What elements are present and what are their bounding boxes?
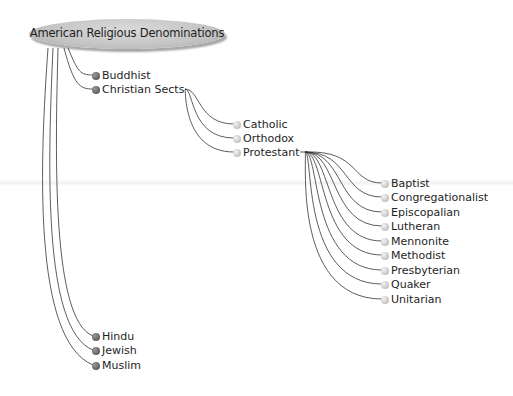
bullet-icon xyxy=(92,86,100,94)
bullet-icon xyxy=(381,209,389,217)
node-label: Catholic xyxy=(243,118,288,131)
node-presbyterian[interactable]: Presbyterian xyxy=(381,264,460,277)
node-label: Muslim xyxy=(102,359,141,372)
node-label: Episcopalian xyxy=(391,206,460,219)
node-catholic[interactable]: Catholic xyxy=(233,118,288,131)
bullet-icon xyxy=(381,296,389,304)
node-label: Baptist xyxy=(391,177,430,190)
node-hindu[interactable]: Hindu xyxy=(92,330,134,343)
node-quaker[interactable]: Quaker xyxy=(381,278,431,291)
bullet-icon xyxy=(233,135,241,143)
bullet-icon xyxy=(381,281,389,289)
bullet-icon xyxy=(92,333,100,341)
node-baptist[interactable]: Baptist xyxy=(381,177,430,190)
node-label: Christian Sects xyxy=(102,83,184,96)
bullet-icon xyxy=(381,238,389,246)
node-label: Orthodox xyxy=(243,132,294,145)
node-label: Buddhist xyxy=(102,69,151,82)
node-label: Lutheran xyxy=(391,220,440,233)
bullet-icon xyxy=(92,362,100,370)
bullet-icon xyxy=(233,121,241,129)
bullet-icon xyxy=(381,194,389,202)
bullet-icon xyxy=(381,252,389,260)
node-jewish[interactable]: Jewish xyxy=(92,344,137,357)
root-node[interactable]: American Religious Denominations xyxy=(29,19,225,49)
node-label: Congregationalist xyxy=(391,191,488,204)
node-congregationalist[interactable]: Congregationalist xyxy=(381,191,488,204)
node-episcopalian[interactable]: Episcopalian xyxy=(381,206,460,219)
bullet-icon xyxy=(381,223,389,231)
bullet-icon xyxy=(381,180,389,188)
node-label: Mennonite xyxy=(391,235,449,248)
bullet-icon xyxy=(92,347,100,355)
node-protestant[interactable]: Protestant xyxy=(233,146,300,159)
node-label: Quaker xyxy=(391,278,431,291)
bullet-icon xyxy=(381,267,389,275)
node-label: Presbyterian xyxy=(391,264,460,277)
node-unitarian[interactable]: Unitarian xyxy=(381,293,441,306)
node-christian-sects[interactable]: Christian Sects xyxy=(92,83,184,96)
node-buddhist[interactable]: Buddhist xyxy=(92,69,151,82)
bullet-icon xyxy=(92,72,100,80)
node-mennonite[interactable]: Mennonite xyxy=(381,235,449,248)
bullet-icon xyxy=(233,149,241,157)
node-label: Unitarian xyxy=(391,293,441,306)
root-label: American Religious Denominations xyxy=(29,26,225,40)
node-label: Jewish xyxy=(102,344,137,357)
node-orthodox[interactable]: Orthodox xyxy=(233,132,294,145)
node-label: Methodist xyxy=(391,249,445,262)
node-label: Protestant xyxy=(243,146,300,159)
node-label: Hindu xyxy=(102,330,134,343)
node-lutheran[interactable]: Lutheran xyxy=(381,220,440,233)
node-muslim[interactable]: Muslim xyxy=(92,359,141,372)
node-methodist[interactable]: Methodist xyxy=(381,249,445,262)
